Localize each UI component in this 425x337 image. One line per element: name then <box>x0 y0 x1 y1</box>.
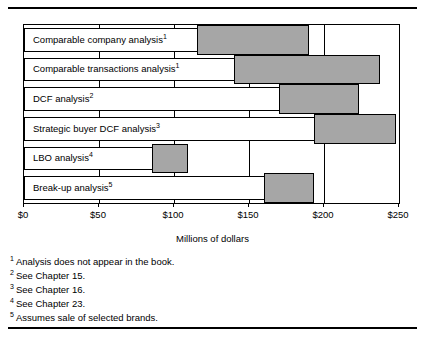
row-label: LBO analysis4 <box>33 154 93 164</box>
x-tick-200 <box>323 203 324 207</box>
row-footnote-marker: 1 <box>163 33 167 40</box>
footnote: 5Assumes sale of selected brands. <box>10 311 410 325</box>
chart-row: Break-up analysis5 <box>24 173 399 203</box>
row-label: Break-up analysis5 <box>33 183 112 193</box>
range-bar <box>152 144 188 174</box>
figure-top-rule <box>8 7 417 9</box>
chart-row: Comparable company analysis1 <box>24 25 399 55</box>
x-tick-250 <box>398 203 399 207</box>
x-tick-label-100: $100 <box>162 209 183 220</box>
footnote-text: See Chapter 16. <box>16 284 85 295</box>
x-tick-label-0: $0 <box>18 209 29 220</box>
x-tick-0 <box>23 203 24 207</box>
footnote-marker: 1 <box>10 255 14 262</box>
footnote-list: 1Analysis does not appear in the book.2S… <box>10 255 410 325</box>
row-footnote-marker: 3 <box>156 122 160 129</box>
range-bar <box>197 25 310 55</box>
chart-row: Strategic buyer DCF analysis3 <box>24 114 399 144</box>
footnote-text: Analysis does not appear in the book. <box>16 256 174 267</box>
row-footnote-marker: 1 <box>176 63 180 70</box>
footnote-marker: 5 <box>10 311 14 318</box>
footnote-text: See Chapter 15. <box>16 270 85 281</box>
valuation-range-figure: Comparable company analysis1Comparable t… <box>0 0 425 337</box>
x-tick-150 <box>248 203 249 207</box>
range-bar <box>279 84 359 114</box>
footnote-text: Assumes sale of selected brands. <box>16 312 158 323</box>
row-label: DCF analysis2 <box>33 94 93 104</box>
chart-row: DCF analysis2 <box>24 84 399 114</box>
x-axis-title: Millions of dollars <box>0 233 425 244</box>
chart-row: LBO analysis4 <box>24 144 399 174</box>
footnote-marker: 3 <box>10 283 14 290</box>
footnote: 1Analysis does not appear in the book. <box>10 255 410 269</box>
footnote: 3See Chapter 16. <box>10 283 410 297</box>
row-label: Strategic buyer DCF analysis3 <box>33 124 160 134</box>
row-label: Comparable transactions analysis1 <box>33 65 179 75</box>
footnote-marker: 2 <box>10 269 14 276</box>
row-label: Comparable company analysis1 <box>33 35 167 45</box>
row-footnote-marker: 2 <box>90 92 94 99</box>
footnote-marker: 4 <box>10 297 14 304</box>
x-tick-50 <box>98 203 99 207</box>
row-footnote-marker: 5 <box>109 181 113 188</box>
range-bar <box>314 114 397 144</box>
chart-plot-area: Comparable company analysis1Comparable t… <box>23 24 400 204</box>
x-tick-label-50: $50 <box>90 209 106 220</box>
figure-bottom-rule <box>8 327 417 329</box>
footnote: 2See Chapter 15. <box>10 269 410 283</box>
range-bar <box>234 55 380 85</box>
footnote-text: See Chapter 23. <box>16 298 85 309</box>
row-footnote-marker: 4 <box>89 152 93 159</box>
x-tick-label-150: $150 <box>237 209 258 220</box>
footnote: 4See Chapter 23. <box>10 297 410 311</box>
x-tick-label-200: $200 <box>312 209 333 220</box>
x-tick-label-250: $250 <box>387 209 408 220</box>
x-tick-100 <box>173 203 174 207</box>
chart-row: Comparable transactions analysis1 <box>24 55 399 85</box>
range-bar <box>264 173 314 203</box>
